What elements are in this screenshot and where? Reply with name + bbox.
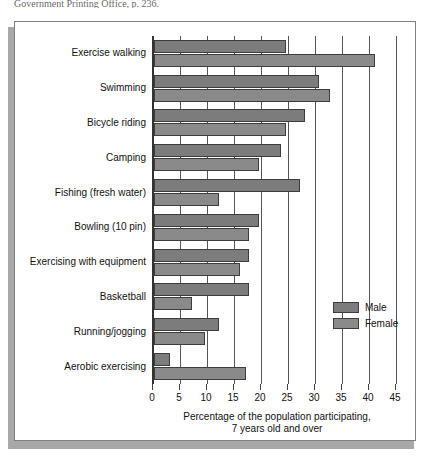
x-axis-title-line2: 7 years old and over — [152, 423, 402, 435]
category-group: Bowling (10 pin) — [153, 210, 396, 245]
category-group: Swimming — [153, 71, 396, 106]
chart-legend: MaleFemale — [333, 300, 398, 332]
x-tick-mark-0 — [152, 384, 153, 390]
bar-male — [154, 283, 249, 296]
x-tick-label-35: 35 — [326, 392, 356, 403]
legend-swatch-female — [333, 318, 359, 329]
bar-male — [154, 214, 259, 227]
bar-male — [154, 75, 319, 88]
bar-female — [154, 332, 205, 345]
x-tick-mark-15 — [233, 384, 234, 390]
x-tick-mark-30 — [314, 384, 315, 390]
chart-figure-box: Exercise walkingSwimmingBicycle ridingCa… — [14, 21, 416, 441]
bar-male — [154, 318, 219, 331]
bar-female — [154, 297, 192, 310]
bar-female — [154, 158, 259, 171]
category-group: Exercising with equipment — [153, 245, 396, 280]
category-group: Fishing (fresh water) — [153, 175, 396, 210]
x-tick-label-5: 5 — [164, 392, 194, 403]
bar-female — [154, 367, 246, 380]
bar-male — [154, 109, 305, 122]
bar-female — [154, 89, 330, 102]
legend-item-male: Male — [333, 300, 398, 314]
category-label: Aerobic exercising — [18, 361, 153, 372]
bar-female — [154, 54, 375, 67]
category-group: Exercise walking — [153, 36, 396, 71]
category-label: Camping — [18, 152, 153, 163]
category-label: Running/jogging — [18, 326, 153, 337]
x-axis-title-line1: Percentage of the population participati… — [152, 411, 402, 423]
x-tick-label-40: 40 — [353, 392, 383, 403]
legend-label-female: Female — [365, 318, 398, 329]
x-axis-title: Percentage of the population participati… — [152, 411, 402, 435]
legend-label-male: Male — [365, 302, 387, 313]
legend-swatch-male — [333, 302, 359, 313]
x-tick-mark-40 — [368, 384, 369, 390]
category-group: Camping — [153, 140, 396, 175]
category-group: Bicycle riding — [153, 106, 396, 141]
plot-wrapper: Exercise walkingSwimmingBicycle ridingCa… — [15, 22, 417, 442]
category-label: Exercising with equipment — [18, 256, 153, 267]
x-tick-label-30: 30 — [299, 392, 329, 403]
x-tick-mark-35 — [341, 384, 342, 390]
category-label: Bowling (10 pin) — [18, 221, 153, 232]
x-tick-mark-25 — [287, 384, 288, 390]
x-tick-label-45: 45 — [380, 392, 410, 403]
bar-male — [154, 353, 170, 366]
category-label: Swimming — [18, 82, 153, 93]
bar-male — [154, 249, 249, 262]
x-tick-label-10: 10 — [191, 392, 221, 403]
category-label: Fishing (fresh water) — [18, 187, 153, 198]
category-label: Exercise walking — [18, 47, 153, 58]
x-tick-mark-45 — [395, 384, 396, 390]
bar-female — [154, 193, 219, 206]
source-citation: Government Printing Office, p. 236. — [14, 0, 314, 8]
bar-female — [154, 263, 240, 276]
x-tick-label-20: 20 — [245, 392, 275, 403]
bar-female — [154, 228, 249, 241]
category-label: Basketball — [18, 291, 153, 302]
bar-male — [154, 144, 281, 157]
x-tick-label-25: 25 — [272, 392, 302, 403]
x-tick-mark-10 — [206, 384, 207, 390]
category-label: Bicycle riding — [18, 117, 153, 128]
x-tick-label-0: 0 — [137, 392, 167, 403]
bar-female — [154, 123, 286, 136]
category-group: Aerobic exercising — [153, 349, 396, 384]
bar-male — [154, 40, 286, 53]
x-tick-mark-20 — [260, 384, 261, 390]
legend-item-female: Female — [333, 316, 398, 330]
bar-male — [154, 179, 300, 192]
x-tick-label-15: 15 — [218, 392, 248, 403]
x-tick-mark-5 — [179, 384, 180, 390]
